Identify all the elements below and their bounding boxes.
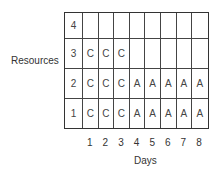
schedule-cell: A xyxy=(130,69,146,99)
schedule-cell: A xyxy=(161,99,177,128)
x-axis-label: Days xyxy=(134,155,157,166)
schedule-cell xyxy=(145,39,161,69)
day-tick-label: 4 xyxy=(129,137,145,148)
schedule-cell xyxy=(130,39,146,69)
schedule-cell xyxy=(83,13,99,39)
schedule-cell xyxy=(130,13,146,39)
day-tick-label: 2 xyxy=(98,137,114,148)
day-tick-label: 5 xyxy=(144,137,160,148)
schedule-cell: A xyxy=(192,99,208,128)
schedule-cell: C xyxy=(99,39,115,69)
resource-row-label: 1 xyxy=(65,99,83,128)
schedule-cell xyxy=(161,13,177,39)
resource-row-label: 2 xyxy=(65,69,83,99)
schedule-cell xyxy=(177,39,193,69)
schedule-cell: C xyxy=(114,99,130,128)
schedule-cell xyxy=(145,13,161,39)
schedule-cell: A xyxy=(161,69,177,99)
schedule-cell: A xyxy=(177,99,193,128)
schedule-cell: C xyxy=(114,39,130,69)
resource-schedule-grid: 43CCC2CCCAAAAA1CCCAAAAA xyxy=(64,12,209,129)
x-axis-ticks: 12345678 xyxy=(82,137,207,148)
schedule-cell: C xyxy=(83,99,99,128)
schedule-cell xyxy=(114,13,130,39)
schedule-cell: C xyxy=(83,39,99,69)
resource-row-label: 3 xyxy=(65,39,83,69)
day-tick-label: 7 xyxy=(176,137,192,148)
schedule-cell: C xyxy=(83,69,99,99)
schedule-cell: C xyxy=(114,69,130,99)
day-tick-label: 6 xyxy=(160,137,176,148)
schedule-cell xyxy=(99,13,115,39)
day-tick-label: 1 xyxy=(82,137,98,148)
schedule-cell xyxy=(161,39,177,69)
schedule-cell: A xyxy=(192,69,208,99)
y-axis-label: Resources xyxy=(11,55,59,66)
schedule-cell xyxy=(192,13,208,39)
schedule-cell: A xyxy=(145,69,161,99)
schedule-cell: A xyxy=(145,99,161,128)
resource-row-label: 4 xyxy=(65,13,83,39)
schedule-cell: A xyxy=(130,99,146,128)
schedule-cell: C xyxy=(99,99,115,128)
schedule-cell: C xyxy=(99,69,115,99)
day-tick-label: 3 xyxy=(113,137,129,148)
day-tick-label: 8 xyxy=(191,137,207,148)
schedule-cell: A xyxy=(177,69,193,99)
schedule-cell xyxy=(192,39,208,69)
schedule-cell xyxy=(177,13,193,39)
